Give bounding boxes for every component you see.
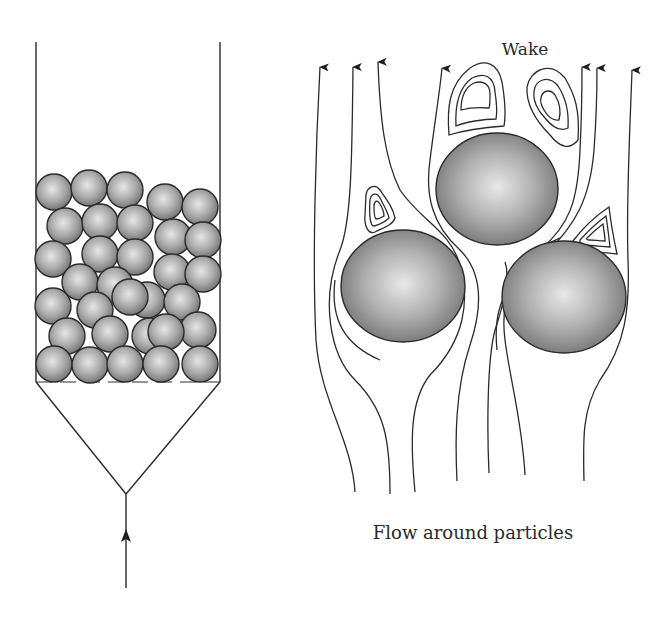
- wake-vortex-left: [365, 186, 395, 232]
- bed-particle: [107, 346, 143, 382]
- bed-particle: [36, 346, 72, 382]
- bed-particle: [47, 208, 83, 244]
- bed-particle: [82, 204, 118, 240]
- bed-particle: [112, 279, 148, 315]
- large-particle-left: [341, 230, 465, 342]
- wake-vortex-top-left: [448, 63, 505, 135]
- bed-particle: [185, 222, 221, 258]
- bed-particle: [36, 174, 72, 210]
- bed-particle: [182, 346, 218, 382]
- bed-particle: [71, 170, 107, 206]
- large-particle-top: [436, 133, 558, 245]
- figure-caption: Flow around particles: [373, 522, 573, 543]
- bed-particle: [148, 314, 184, 350]
- packed-particles: [35, 170, 221, 383]
- bed-particle: [147, 184, 183, 220]
- bed-particle: [182, 189, 218, 225]
- large-particle-right: [502, 241, 626, 353]
- wake-vortex-top-right: [527, 68, 579, 146]
- large-particles: [341, 133, 626, 353]
- wake-label: Wake: [502, 39, 549, 59]
- bed-particle: [143, 346, 179, 382]
- bed-particle: [72, 347, 108, 383]
- cone-right-side: [126, 382, 220, 494]
- bed-particle: [107, 172, 143, 208]
- bed-particle: [117, 205, 153, 241]
- cone-left-side: [36, 382, 126, 494]
- bed-particle: [180, 312, 216, 348]
